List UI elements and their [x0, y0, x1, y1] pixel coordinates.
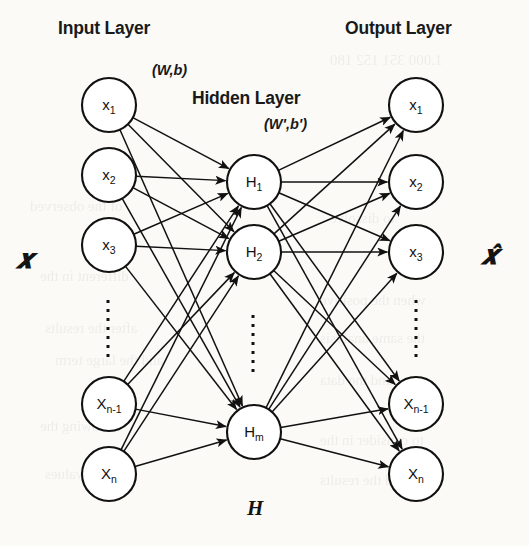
- ellipsis-dots: [108, 300, 416, 375]
- neuron-in-x2[interactable]: x2: [82, 148, 136, 202]
- neuron-out-xn1[interactable]: Xn-1: [389, 377, 443, 431]
- output-layer-title: Output Layer: [345, 18, 452, 39]
- connection-edge: [274, 270, 396, 384]
- decoder-weight-label: (W',b'): [264, 116, 307, 132]
- connection-edge: [280, 439, 388, 467]
- hidden-layer-title: Hidden Layer: [192, 88, 300, 109]
- neuron-h-h1[interactable]: H1: [227, 155, 281, 209]
- neuron-in-xn1[interactable]: Xn-1: [82, 377, 136, 431]
- neuron-h-hm[interactable]: Hm: [227, 405, 281, 459]
- neuron-out-xn[interactable]: Xn: [389, 447, 443, 501]
- network-graph: x1x2x3Xn-1XnH1H2Hmx1x2x3Xn-1Xn: [0, 0, 529, 546]
- input-layer-title: Input Layer: [58, 18, 150, 39]
- connection-edge: [121, 208, 241, 450]
- neuron-out-x1[interactable]: x1: [389, 78, 443, 132]
- neuron-in-x1[interactable]: x1: [82, 78, 136, 132]
- figure-canvas: 1.000 351 152 180of the observedto disso…: [0, 0, 529, 546]
- neuron-in-xn[interactable]: Xn: [82, 447, 136, 501]
- input-vector-label: 𝒙: [16, 244, 33, 275]
- encoder-weight-label: (W,b): [152, 62, 187, 78]
- neuron-out-x3[interactable]: x3: [389, 225, 443, 279]
- hidden-vector-label: H: [247, 496, 263, 521]
- output-vector-label: 𝒙̂: [481, 240, 498, 271]
- connection-edge: [272, 273, 397, 412]
- connection-edge: [135, 440, 227, 467]
- neuron-in-x3[interactable]: x3: [82, 218, 136, 272]
- neuron-out-x2[interactable]: x2: [389, 155, 443, 209]
- connection-edge: [134, 193, 228, 234]
- neuron-h-h2[interactable]: H2: [227, 225, 281, 279]
- connection-edge: [266, 131, 403, 408]
- connection-edge: [281, 409, 388, 428]
